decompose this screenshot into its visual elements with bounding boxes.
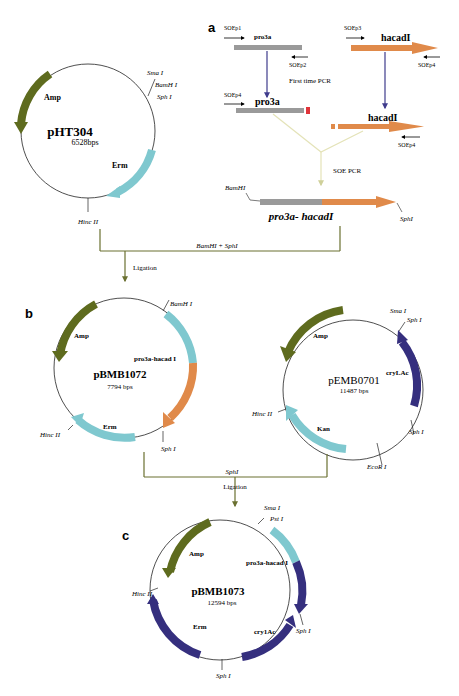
primer-soep4: SOEp4 — [418, 62, 435, 68]
site-sphi: Sph I — [407, 316, 422, 324]
soe-merge-lines — [273, 114, 363, 152]
primer-soep4: SOEp4 — [398, 142, 415, 148]
gene-label-cry: cryLAc — [386, 369, 409, 377]
fusion-arrowhead-icon — [376, 196, 396, 208]
site-sma: Sma I — [147, 69, 164, 77]
hacadi-bar — [338, 124, 390, 129]
flow-digest-ligation-2: SphI Ligation — [144, 452, 327, 506]
flow-digest-ligation-1: BamHI + SphI Ligation — [100, 226, 340, 281]
site-bamhi: BamH I — [170, 300, 193, 308]
gene-label-erm: Erm — [112, 161, 128, 170]
insert-arrowhead-icon — [294, 604, 308, 614]
amp-gene-arc — [60, 304, 96, 355]
site-hincii: Hinc II — [251, 410, 273, 418]
gene-label-hacadi: hacadI — [381, 32, 411, 43]
panel-label-b: b — [25, 306, 33, 321]
panel-label-c: c — [122, 528, 129, 543]
site-sphi: Sph I — [409, 428, 424, 436]
plasmid-pBMB1072: b pBMB1072 7794 bps Amp pro3a-hacad I Er… — [25, 298, 194, 453]
erm-arrowhead-icon — [106, 186, 120, 198]
site-sphi: Sph I — [161, 445, 176, 453]
gene-label-hacadi: hacadI — [368, 112, 398, 123]
primer-soep4: SOEp4 — [224, 92, 241, 98]
site-sphi: Sph I — [216, 672, 231, 680]
overlap-tag — [306, 107, 310, 114]
pro3a-segment — [260, 199, 322, 205]
gene-label-kan: Kan — [317, 425, 330, 433]
gene-label-amp: Amp — [74, 332, 89, 340]
plasmid-pBMB1073: c pBMB1073 12594 bps Amp pro3a-hacad I E… — [122, 504, 311, 680]
plasmid-pHT304: pHT304 6528bps Amp Erm Sma I BamH I Sph … — [14, 64, 178, 226]
amp-arrowhead-icon — [14, 122, 28, 134]
hacadi-bar — [351, 45, 413, 51]
soe-pcr-label: SOE PCR — [333, 167, 362, 175]
hacadi-arrowhead-icon — [389, 121, 424, 132]
gene-label-amp: Amp — [189, 550, 204, 558]
site-bamhi: BamH I — [155, 81, 178, 89]
site-sphi: SphI — [400, 215, 414, 223]
panel-a-soe-pcr: a SOEp1 pro3a SOEp2 First time PCR SOEp3… — [208, 20, 440, 223]
gene-label-erm: Erm — [193, 623, 207, 631]
site-psti: Pst I — [269, 515, 284, 523]
site-hincii: Hinc II — [39, 431, 61, 439]
digest-label: SphI — [226, 468, 240, 476]
hacadi-segment — [322, 199, 377, 205]
gene-label-amp: Amp — [313, 332, 328, 340]
ligation-label: Ligation — [133, 264, 157, 272]
plasmid-name: pBMB1072 — [93, 368, 147, 380]
site-bamhi: BamHI — [225, 184, 246, 192]
cloning-diagram: pHT304 6528bps Amp Erm Sma I BamH I Sph … — [0, 0, 459, 696]
gene-label-pro3a: pro3a — [255, 96, 280, 107]
site-hincii: Hinc II — [77, 218, 99, 226]
digest-label: BamHI + SphI — [196, 242, 238, 250]
plasmid-name: pBMB1073 — [191, 585, 245, 597]
insert-pro3a-arc — [272, 530, 296, 562]
first-pcr-label: First time PCR — [289, 77, 331, 85]
site-sphi: Sph I — [157, 93, 172, 101]
plasmid-size: 12594 bps — [208, 599, 237, 607]
primer-soep3: SOEp3 — [344, 25, 361, 31]
plasmid-size: 6528bps — [71, 138, 98, 147]
site-sphi: Sph I — [296, 627, 311, 635]
primer-soep2: SOEp2 — [289, 62, 306, 68]
hacadi-arrowhead-icon — [412, 42, 438, 54]
plasmid-size: 11487 bps — [340, 387, 369, 395]
overlap-tag — [331, 124, 335, 129]
amp-arrowhead-icon — [162, 568, 176, 578]
fusion-label: pro3a- hacadI — [268, 210, 334, 222]
pro3a-bar — [236, 108, 304, 113]
plasmid-size: 7794 bps — [107, 383, 133, 391]
plasmid-name: pEMB0701 — [328, 374, 379, 386]
site-ecori: EcoR I — [366, 463, 387, 471]
gene-label-insert: pro3a-hacad I — [246, 559, 288, 567]
site-hincii: Hinc II — [131, 590, 153, 598]
primer-soep1: SOEp1 — [224, 25, 241, 31]
gene-label-cry: cry1Ac — [254, 628, 275, 636]
gene-label-erm: Erm — [103, 423, 117, 431]
site-smai: Sma I — [264, 504, 281, 512]
gene-label-amp: Amp — [44, 93, 61, 102]
site-smai: Sma I — [390, 307, 407, 315]
insert-hacadi-arc — [296, 562, 302, 605]
panel-label-a: a — [208, 20, 216, 35]
amp-gene-arc — [170, 522, 210, 572]
erm-gene-arc — [118, 150, 152, 192]
pro3a-bar — [234, 45, 302, 50]
insert-hacadi-arc — [170, 363, 193, 418]
gene-label-pro3a: pro3a — [254, 33, 272, 41]
plasmid-pEMB0701: pEMB0701 11487 bps Amp cryLAc Kan Sma I … — [251, 307, 424, 471]
ligation-label: Ligation — [223, 483, 247, 491]
plasmid-name: pHT304 — [47, 124, 93, 139]
gene-label-insert: pro3a-hacad I — [134, 355, 176, 363]
